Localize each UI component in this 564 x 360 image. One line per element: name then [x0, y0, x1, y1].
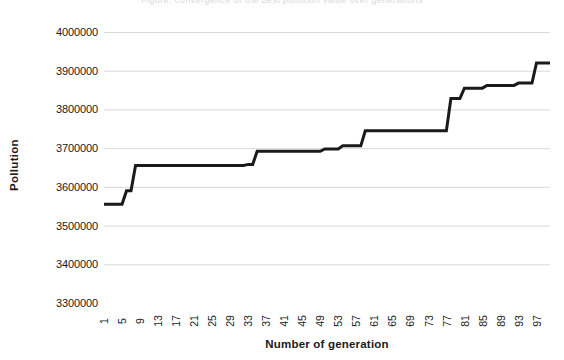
y-axis-tick-label: 3300000 — [56, 297, 98, 309]
y-axis-tick-label: 4000000 — [56, 26, 98, 38]
y-axis-tick-label: 3700000 — [56, 142, 98, 154]
x-axis-tick-label-text: 93 — [512, 315, 524, 327]
x-axis-tick-label-text: 37 — [260, 315, 272, 327]
x-axis-tick-label-text: 57 — [350, 315, 362, 327]
chart-svg — [104, 32, 550, 303]
x-axis-tick-label-text: 65 — [386, 315, 398, 327]
y-axis-tick-label: 3900000 — [56, 65, 98, 77]
x-axis-tick-label-text: 33 — [242, 315, 254, 327]
y-axis-tick-label: 3800000 — [56, 103, 98, 115]
y-axis-title-label: Pollution — [8, 139, 20, 191]
clipped-caption-label: Figure: convergence of the best pollutio… — [141, 0, 423, 5]
y-axis-tick-labels: 4000000390000038000003700000360000035000… — [28, 0, 102, 360]
x-axis-tick-label-text: 25 — [206, 315, 218, 327]
plot-area — [104, 32, 550, 303]
x-axis-tick-label-text: 73 — [422, 315, 434, 327]
y-axis-title: Pollution — [0, 0, 28, 330]
x-axis-title: Number of generation — [104, 338, 550, 350]
x-axis-tick-label-text: 41 — [278, 315, 290, 327]
x-axis-tick-label-text: 5 — [116, 318, 128, 324]
pollution-data-line — [104, 63, 550, 204]
pollution-convergence-chart: Figure: convergence of the best pollutio… — [0, 0, 564, 360]
x-axis-tick-label-text: 89 — [494, 315, 506, 327]
x-axis-tick-label-text: 29 — [224, 315, 236, 327]
x-axis-tick-label-text: 61 — [368, 315, 380, 327]
x-axis-tick-label-text: 9 — [134, 318, 146, 324]
gridlines — [104, 33, 550, 304]
y-axis-tick-label: 3500000 — [56, 220, 98, 232]
x-axis-tick-label-text: 21 — [188, 315, 200, 327]
y-axis-tick-label: 3600000 — [56, 181, 98, 193]
x-axis-tick-label-text: 69 — [404, 315, 416, 327]
x-axis-tick-label-text: 85 — [476, 315, 488, 327]
y-axis-tick-label: 3400000 — [56, 258, 98, 270]
x-axis-tick-label-text: 17 — [170, 315, 182, 327]
x-axis-tick-label-text: 97 — [530, 315, 542, 327]
x-axis-tick-label-text: 13 — [152, 315, 164, 327]
x-axis-tick-label-text: 77 — [440, 315, 452, 327]
x-axis-tick-label-text: 45 — [296, 315, 308, 327]
x-axis-tick-label-text: 81 — [458, 315, 470, 327]
x-axis-tick-label-text: 53 — [332, 315, 344, 327]
x-axis-tick-label-text: 1 — [98, 318, 110, 324]
x-axis-tick-label-text: 49 — [314, 315, 326, 327]
